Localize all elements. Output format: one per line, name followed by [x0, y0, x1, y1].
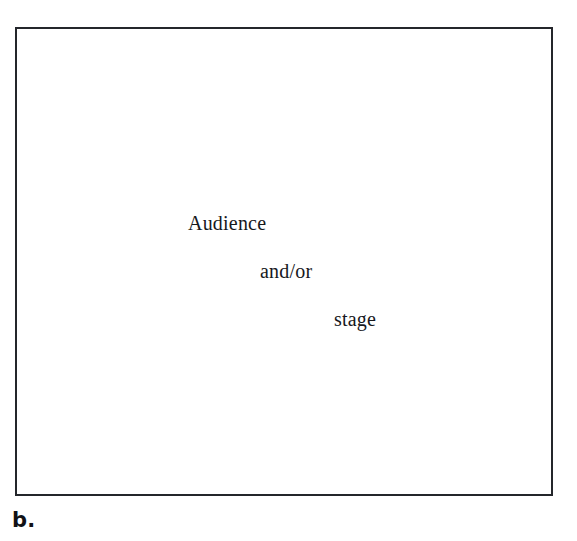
figure-line-audience: Audience [188, 199, 548, 247]
figure-text-block: Audience and/or stage [188, 199, 548, 343]
figure-frame: Audience and/or stage [15, 27, 553, 496]
figure-page: Audience and/or stage b. [0, 0, 577, 541]
figure-line-stage: stage [334, 295, 548, 343]
panel-label: b. [12, 508, 36, 532]
figure-line-and-or: and/or [260, 247, 548, 295]
